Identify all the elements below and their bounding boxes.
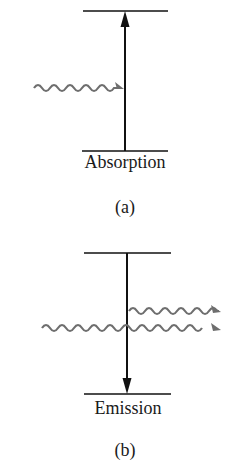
- arrowhead-down-icon: [123, 378, 132, 394]
- emission-label: Emission: [78, 398, 178, 419]
- incoming-photon-wave: [42, 325, 202, 331]
- photon-arrowhead-icon: [211, 305, 221, 313]
- panel-b-emission: [42, 253, 221, 394]
- incoming-photon-wave: [34, 85, 118, 91]
- absorption-label: Absorption: [70, 152, 180, 173]
- panel-a-absorption: [34, 11, 168, 151]
- panel-a-caption: (a): [100, 197, 150, 218]
- emitted-photon-wave: [129, 308, 219, 314]
- panel-b-caption: (b): [100, 440, 150, 461]
- arrowhead-up-icon: [121, 11, 130, 27]
- photon-arrowhead-icon: [211, 323, 221, 331]
